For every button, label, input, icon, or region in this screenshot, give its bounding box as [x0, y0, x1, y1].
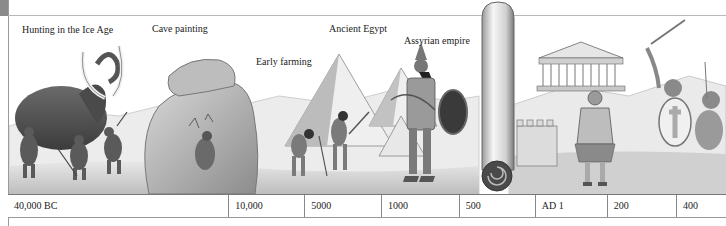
caption-assyrian-empire: Assyrian empire: [404, 35, 470, 46]
timeline-cell-ad1: AD 1: [535, 195, 607, 217]
scroll-divider-icon: [478, 0, 518, 192]
timeline-scale: 40,000 BC 10,000 5000 1000 500 AD 1 200 …: [8, 194, 726, 218]
caption-cave-painting: Cave painting: [152, 23, 208, 34]
timeline-cell-10000: 10,000: [228, 195, 304, 217]
caption-early-farming: Early farming: [256, 56, 312, 67]
city-wall-drawing: [517, 120, 557, 166]
timeline-cell-500: 500: [459, 195, 535, 217]
page-edge-tab: [0, 0, 8, 16]
cave-rock-drawing: [145, 59, 258, 194]
scene-illustration: [9, 16, 726, 194]
timeline-illustration: Hunting in the Ice Age Cave painting Ear…: [0, 0, 726, 226]
timeline-cell-40000bc: 40,000 BC: [8, 195, 228, 217]
temple-drawing: [537, 42, 625, 91]
timeline-cell-200: 200: [607, 195, 676, 217]
timeline-cell-5000: 5000: [304, 195, 381, 217]
timeline-cell-1000: 1000: [381, 195, 459, 217]
timeline-cell-400: 400: [676, 195, 726, 217]
caption-ancient-egypt: Ancient Egypt: [329, 23, 387, 34]
history-scene: [9, 16, 726, 194]
caption-ice-age: Hunting in the Ice Age: [22, 24, 113, 35]
